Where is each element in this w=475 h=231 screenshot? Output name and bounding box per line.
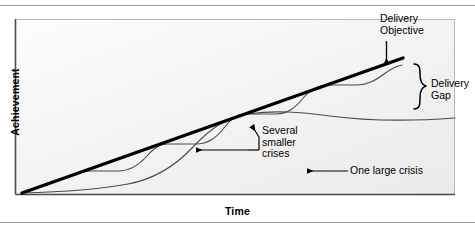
annotation-one-large-crisis: One large crisis <box>350 165 423 177</box>
annotation-delivery-gap: Delivery Gap <box>431 78 469 101</box>
annotation-delivery-objective: Delivery Objective <box>380 13 424 36</box>
bottom-divider-rule <box>0 222 475 223</box>
figure: Achievement Time Delivery Objective Deli… <box>0 0 475 231</box>
top-divider-rule <box>0 5 475 6</box>
y-axis-title: Achievement <box>9 57 21 147</box>
annotation-several-smaller-crises: Several smaller crises <box>262 125 298 160</box>
x-axis-title: Time <box>0 205 475 217</box>
